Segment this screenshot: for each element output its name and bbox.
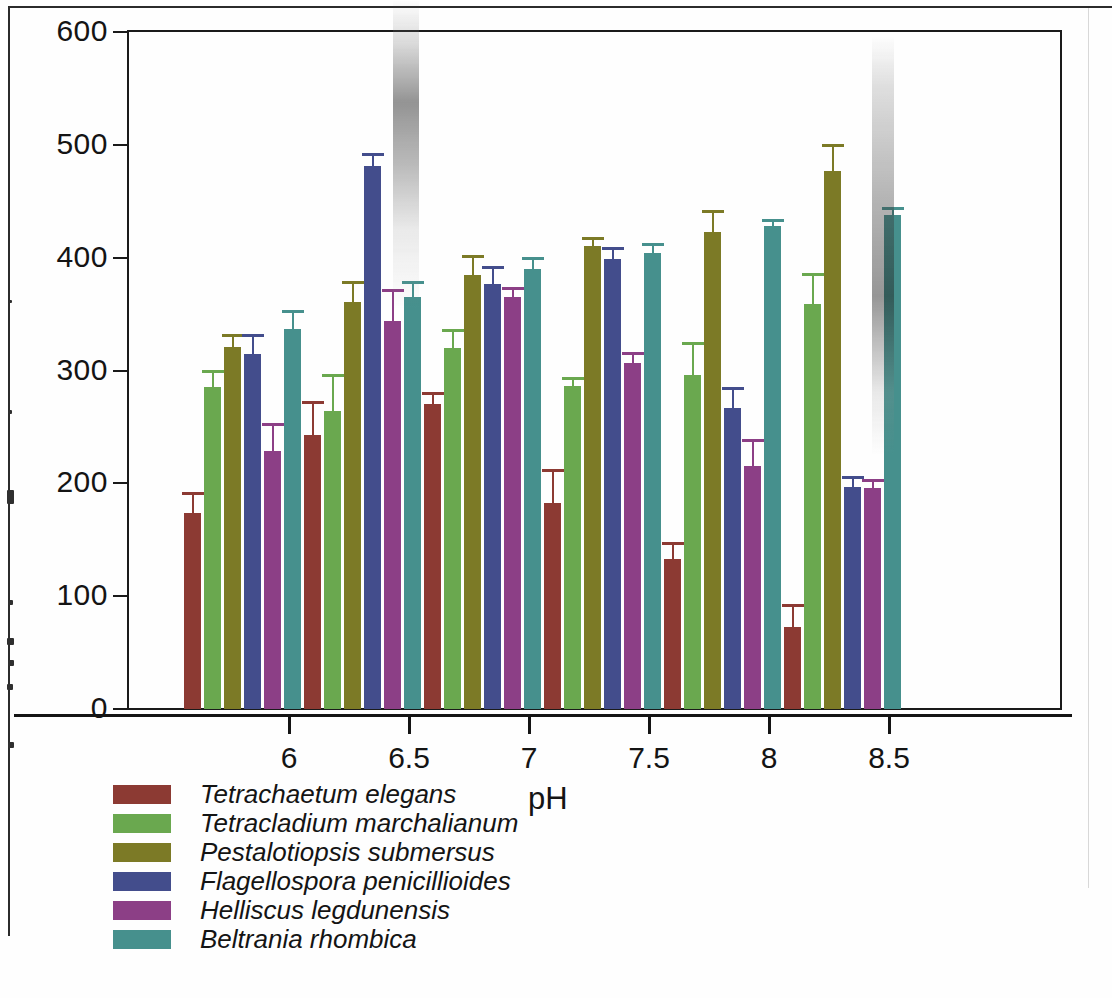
error-bar-whisker: [772, 222, 774, 227]
y-axis-tick-label: 100: [16, 580, 108, 610]
bar: [384, 321, 401, 709]
legend-item: Tetracladium marchalianum: [113, 809, 518, 838]
legend-color-swatch: [113, 785, 171, 804]
error-bar-cap: [622, 352, 644, 355]
scan-speck-artifact: [7, 638, 14, 645]
error-bar-whisker: [432, 395, 434, 404]
error-bar-whisker: [372, 156, 374, 166]
error-bar-cap: [742, 439, 764, 442]
x-axis-tick-label: 8.5: [844, 742, 934, 774]
bar: [624, 363, 641, 709]
error-bar-cap: [262, 423, 284, 426]
chart-legend: Tetrachaetum elegansTetracladium marchal…: [113, 780, 518, 954]
page-border-top: [8, 6, 1112, 8]
error-bar-whisker: [472, 258, 474, 275]
error-bar-whisker: [512, 290, 514, 297]
bar: [804, 304, 821, 709]
error-bar-cap: [662, 542, 684, 545]
y-axis-tick-label-wrap: 0: [0, 693, 108, 723]
scanned-page: 6005004003002001000 66.577.588.5 pH Tetr…: [0, 0, 1112, 998]
scan-speck-artifact: [7, 684, 13, 690]
scan-speck-artifact: [9, 300, 12, 303]
y-axis-tick-label: 0: [16, 693, 108, 723]
bar: [184, 513, 201, 709]
error-bar-cap: [362, 153, 384, 156]
error-bar-whisker: [232, 337, 234, 347]
x-axis-tick-label: 7.5: [604, 742, 694, 774]
error-bar-cap: [582, 237, 604, 240]
x-axis-tick: [528, 717, 531, 734]
y-axis-tick-label-wrap: 200: [0, 467, 108, 497]
error-bar-cap: [402, 281, 424, 284]
error-bar-cap: [822, 144, 844, 147]
error-bar-cap: [602, 247, 624, 250]
error-bar-whisker: [212, 373, 214, 388]
x-axis-tick-label: 6.5: [364, 742, 454, 774]
error-bar-cap: [522, 257, 544, 260]
error-bar-whisker: [292, 313, 294, 329]
bar: [704, 232, 721, 709]
error-bar-whisker: [592, 240, 594, 247]
error-bar-whisker: [452, 332, 454, 348]
bar: [784, 627, 801, 709]
error-bar-cap: [182, 492, 204, 495]
x-axis-tick: [768, 717, 771, 734]
error-bar-cap: [422, 392, 444, 395]
error-bar-whisker: [892, 210, 894, 215]
legend-color-swatch: [113, 843, 171, 862]
error-bar-cap: [502, 287, 524, 290]
error-bar-whisker: [652, 246, 654, 253]
error-bar-whisker: [852, 479, 854, 487]
bar: [844, 487, 861, 709]
y-axis-tick-label: 600: [16, 16, 108, 46]
error-bar-whisker: [732, 390, 734, 408]
x-axis-title: pH: [528, 782, 568, 816]
legend-item-label: Tetrachaetum elegans: [200, 781, 456, 808]
error-bar-whisker: [252, 337, 254, 354]
bar-plot-area: [129, 32, 1060, 709]
error-bar-cap: [222, 334, 244, 337]
error-bar-whisker: [612, 250, 614, 259]
legend-item: Flagellospora penicillioides: [113, 867, 518, 896]
bar: [424, 404, 441, 709]
error-bar-cap: [802, 273, 824, 276]
y-axis-tick-label: 200: [16, 467, 108, 497]
bar: [544, 503, 561, 709]
bar: [464, 275, 481, 709]
bar: [264, 451, 281, 709]
y-axis-tick-label-wrap: 600: [0, 16, 108, 46]
error-bar-whisker: [312, 404, 314, 434]
legend-item-label: Beltrania rhombica: [200, 926, 417, 953]
error-bar-cap: [342, 281, 364, 284]
error-bar-whisker: [712, 213, 714, 232]
error-bar-cap: [882, 207, 904, 210]
bar: [284, 329, 301, 709]
error-bar-whisker: [632, 355, 634, 363]
x-axis-tick-label: 8: [724, 742, 814, 774]
bar: [524, 269, 541, 709]
x-axis-tick-label: 6: [244, 742, 334, 774]
error-bar-whisker: [392, 292, 394, 321]
bar: [244, 354, 261, 709]
bar: [584, 246, 601, 709]
bar: [324, 411, 341, 709]
bar: [884, 215, 901, 709]
legend-item: Tetrachaetum elegans: [113, 780, 518, 809]
error-bar-whisker: [872, 482, 874, 488]
bar: [484, 284, 501, 709]
bar: [644, 253, 661, 709]
error-bar-cap: [702, 210, 724, 213]
x-axis-tick-label: 7: [484, 742, 574, 774]
bar: [684, 375, 701, 709]
y-axis-tick-label-wrap: 400: [0, 242, 108, 272]
bar: [504, 297, 521, 709]
error-bar-cap: [242, 334, 264, 337]
x-axis-tick: [888, 717, 891, 734]
error-bar-whisker: [412, 284, 414, 298]
error-bar-whisker: [192, 495, 194, 513]
legend-color-swatch: [113, 930, 171, 949]
x-axis-tick: [648, 717, 651, 734]
error-bar-whisker: [492, 269, 494, 284]
y-axis-tick-label-wrap: 100: [0, 580, 108, 610]
error-bar-cap: [842, 476, 864, 479]
